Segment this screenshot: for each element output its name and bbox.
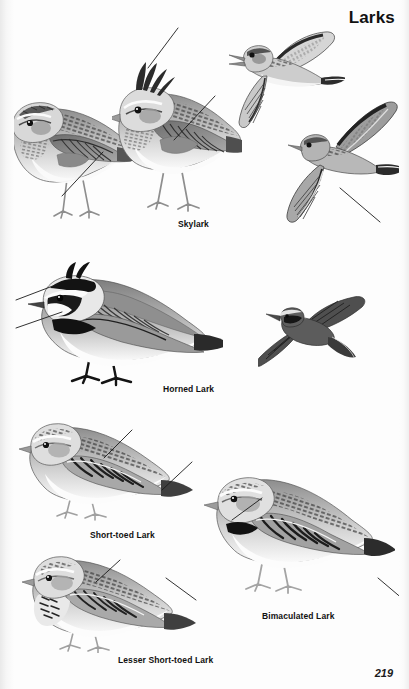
caption-bimaculated-lark: Bimaculated Lark	[262, 611, 334, 621]
figure-skylark-perched-crest	[112, 52, 242, 222]
figure-skylark-flight-below	[278, 95, 406, 230]
caption-skylark: Skylark	[178, 219, 209, 229]
caption-lesser-short-toed-lark: Lesser Short-toed Lark	[118, 655, 213, 665]
figure-short-toed-lark	[15, 412, 195, 522]
caption-short-toed-lark: Short-toed Lark	[90, 530, 155, 540]
figure-horned-lark-perched	[18, 258, 223, 388]
caption-horned-lark: Horned Lark	[163, 384, 214, 394]
page-number: 219	[375, 667, 393, 679]
figure-horned-lark-flight	[258, 295, 376, 375]
figure-lesser-short-toed-lark	[18, 543, 198, 653]
figure-bimaculated-lark	[200, 458, 395, 598]
page-title: Larks	[349, 8, 395, 28]
field-guide-plate: Larks	[0, 0, 409, 689]
